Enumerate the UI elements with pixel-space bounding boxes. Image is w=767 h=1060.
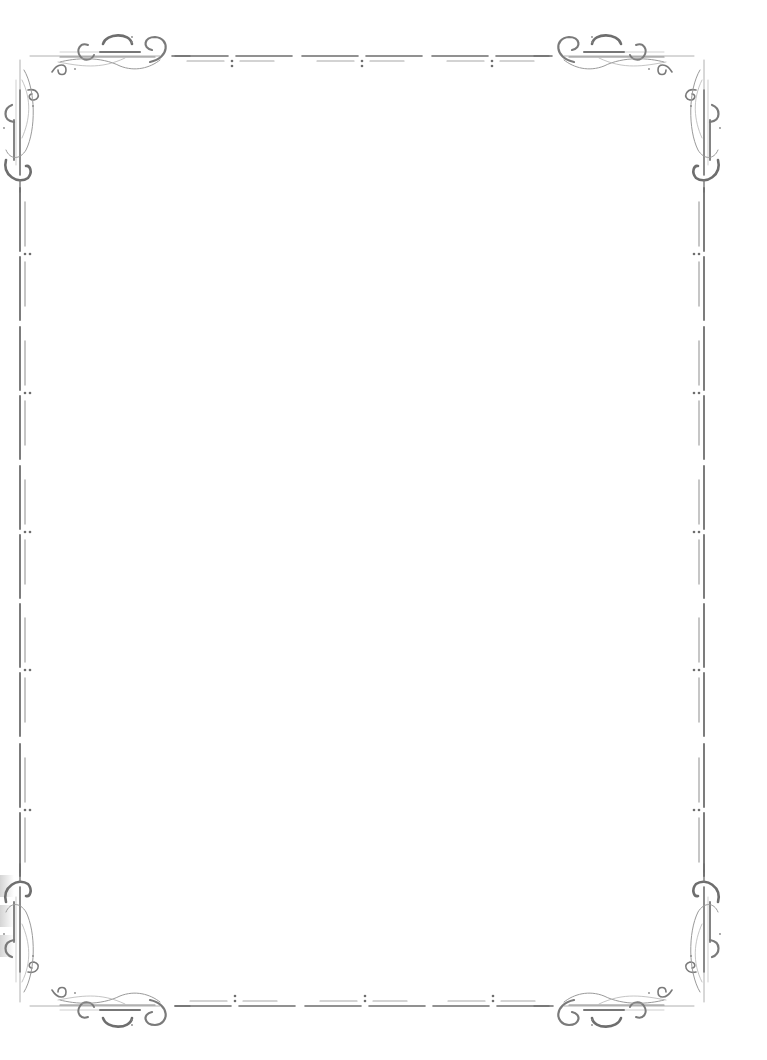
ornament-dot	[698, 253, 701, 256]
blank-content-area	[40, 80, 685, 985]
page	[0, 0, 767, 1060]
ornament-dot	[693, 809, 696, 812]
ornament-dot	[29, 392, 32, 395]
ornament-dot	[24, 669, 27, 672]
ornament-dot	[24, 253, 27, 256]
ornament-dot	[693, 669, 696, 672]
ornament-dot	[29, 531, 32, 534]
ornament-dot	[231, 60, 234, 63]
ornament-dot	[693, 392, 696, 395]
ornament-dot	[698, 392, 701, 395]
ornament-dot	[364, 995, 367, 998]
ornament-dot	[361, 65, 364, 68]
ornament-dot	[234, 995, 237, 998]
ornament-dot	[492, 995, 495, 998]
ornament-dot	[491, 65, 494, 68]
ornament-dot	[231, 65, 234, 68]
ornament-dot	[234, 1000, 237, 1003]
ornament-dot	[29, 253, 32, 256]
ornament-dot	[693, 531, 696, 534]
ornament-dot	[24, 392, 27, 395]
ornament-dot	[492, 1000, 495, 1003]
ornament-dot	[698, 669, 701, 672]
ornament-dot	[698, 809, 701, 812]
ornament-dot	[491, 60, 494, 63]
ornament-dot	[361, 60, 364, 63]
ornament-dot	[693, 253, 696, 256]
ornament-dot	[698, 531, 701, 534]
ornament-dot	[29, 809, 32, 812]
ornament-dot	[364, 1000, 367, 1003]
ornament-dot	[24, 531, 27, 534]
ornament-dot	[29, 669, 32, 672]
ornament-dot	[24, 809, 27, 812]
